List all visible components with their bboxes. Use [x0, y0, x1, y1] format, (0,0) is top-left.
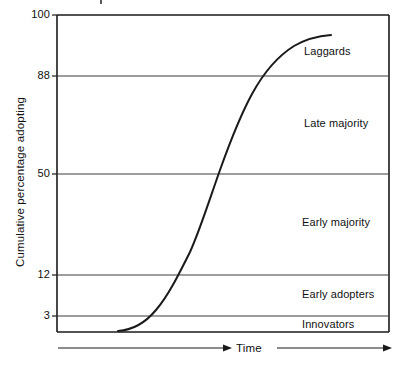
- adoption-curve-line: [118, 35, 331, 331]
- scan-artifact-speck: [100, 0, 102, 4]
- y-tick-label-100: 100: [10, 9, 50, 20]
- segment-label-laggards: Laggards: [304, 45, 351, 57]
- time-arrow-left-head: [223, 345, 232, 352]
- segment-label-early-majority: Early majority: [302, 216, 370, 228]
- x-axis-title: Time: [236, 342, 262, 354]
- gridlines: [57, 76, 389, 316]
- time-axis-arrows: [58, 345, 392, 352]
- segment-label-innovators: Innovators: [302, 318, 354, 330]
- segment-label-late-majority: Late majority: [304, 117, 368, 129]
- segment-label-early-adopters: Early adopters: [302, 288, 374, 300]
- y-tick-label-3: 3: [10, 310, 50, 321]
- time-arrow-right-head: [383, 345, 392, 352]
- y-axis-title: Cumulative percentage adopting: [14, 62, 26, 302]
- adoption-curve-chart: 100 88 50 12 3 Cumulative percentage ado…: [0, 0, 404, 366]
